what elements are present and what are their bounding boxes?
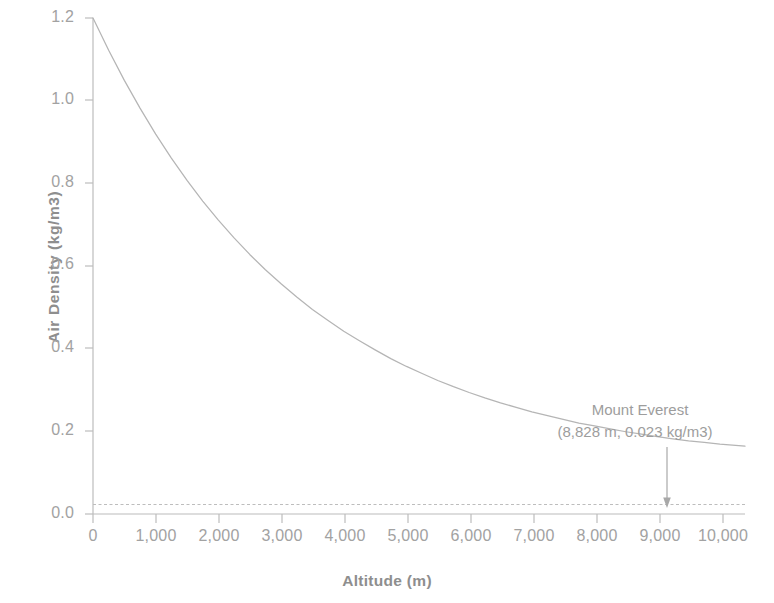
y-axis-ticks: [85, 18, 93, 514]
air-density-curve: [93, 18, 745, 446]
x-axis-ticks: [93, 514, 723, 523]
annotation-arrow-icon: [663, 447, 671, 508]
chart-figure: Air Density (kg/m3) Altitude (m) 1.2 1.0…: [0, 0, 774, 603]
plot-area: [0, 0, 774, 603]
annotation-value: (8,828 m, 0.023 kg/m3): [490, 422, 774, 443]
annotation-title: Mount Everest: [500, 400, 774, 421]
